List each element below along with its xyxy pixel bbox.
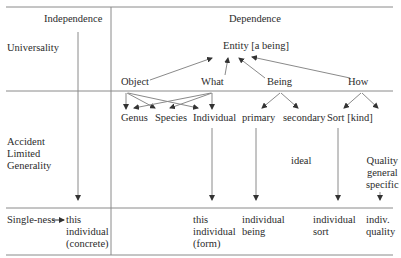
what-to-species-arrow (170, 93, 212, 108)
node-genus: Genus (121, 112, 148, 124)
node-species: Species (155, 112, 187, 124)
node-entity: Entity [a being] (223, 40, 289, 52)
node-individual: Individual (193, 112, 236, 124)
outcome-quality: indiv. quality (366, 214, 395, 238)
outcome-concrete: this individual (concrete) (66, 214, 109, 250)
row-header-accident: Accident Limited Generality (7, 136, 51, 172)
outcome-being: individual being (242, 214, 285, 238)
how-to-sort-arrow (344, 93, 361, 108)
column-header-dependence: Dependence (229, 13, 281, 25)
node-secondary: secondary (283, 112, 326, 124)
node-how: How (348, 76, 368, 88)
node-what: What (201, 76, 224, 88)
object-to-species-arrow (127, 93, 155, 108)
node-sort: Sort [kind] (327, 112, 373, 124)
column-header-independence: Independence (44, 13, 102, 25)
row-header-singleness: Single-ness (7, 214, 55, 226)
being-to-primary-arrow (262, 93, 280, 108)
node-object: Object (121, 76, 149, 88)
how-to-quality-arrow (362, 93, 378, 108)
how-to-entity-arrow (252, 57, 350, 78)
node-being: Being (267, 76, 292, 88)
outcome-form: this individual (form) (193, 214, 236, 250)
node-quality: Quality general specific (366, 155, 399, 191)
object-to-individual-arrow (128, 93, 198, 108)
node-primary: primary (242, 112, 275, 124)
being-to-secondary-arrow (281, 93, 298, 108)
node-ideal: ideal (291, 155, 311, 167)
what-to-entity-arrow (225, 58, 228, 75)
being-to-entity-arrow (239, 58, 265, 78)
row-header-universality: Universality (7, 42, 59, 54)
what-to-genus-arrow (134, 93, 211, 108)
outcome-sort: individual sort (313, 214, 356, 238)
